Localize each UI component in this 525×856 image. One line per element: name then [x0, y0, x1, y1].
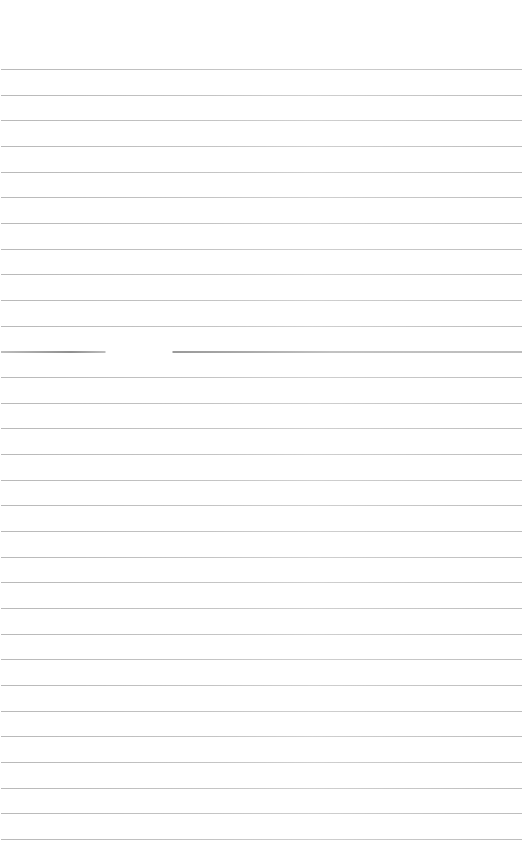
- ruled-line: [1, 634, 522, 635]
- ruled-line: [1, 300, 522, 301]
- ruled-line: [1, 608, 522, 609]
- ruled-line: [1, 223, 522, 224]
- ruled-line: [1, 197, 522, 198]
- ruled-line: [1, 274, 522, 275]
- ruled-line: [1, 659, 522, 660]
- ruled-line: [1, 557, 522, 558]
- ruled-line: [1, 762, 522, 763]
- ruled-line: [1, 685, 522, 686]
- ruled-line: [1, 69, 522, 70]
- ruled-line: [1, 582, 522, 583]
- ruled-line: [1, 428, 522, 429]
- ruled-line: [1, 403, 522, 404]
- ruled-line: [1, 351, 522, 353]
- ruled-line: [1, 505, 522, 506]
- ruled-line: [1, 249, 522, 250]
- ruled-line: [1, 377, 522, 378]
- ruled-line: [1, 172, 522, 173]
- ruled-line: [1, 531, 522, 532]
- ruled-line: [1, 454, 522, 455]
- ruled-line: [1, 813, 522, 814]
- ruled-line: [1, 736, 522, 737]
- ruled-line: [1, 711, 522, 712]
- ruled-line: [1, 120, 522, 121]
- ruled-line: [1, 839, 522, 840]
- ruled-line: [1, 480, 522, 481]
- ruled-line: [1, 146, 522, 147]
- ruled-line: [1, 326, 522, 327]
- ruled-line: [1, 95, 522, 96]
- ruled-line: [1, 788, 522, 789]
- lined-paper-sheet: [0, 0, 525, 856]
